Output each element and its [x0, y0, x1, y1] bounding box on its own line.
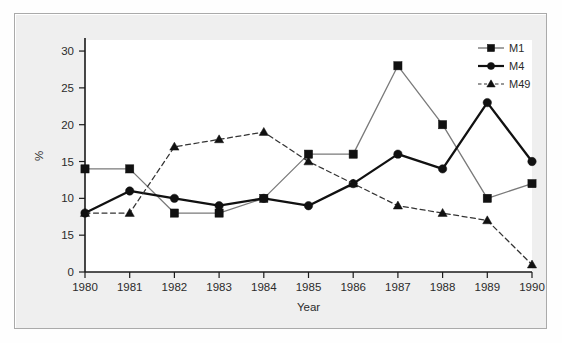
y-tick-label: 15: [61, 229, 74, 241]
x-tick-label: 1982: [162, 281, 188, 293]
x-tick-label: 1989: [475, 281, 501, 293]
data-point-marker: [81, 165, 89, 173]
x-axis-ticks: 1980198119821983198419851986198719881989…: [72, 272, 545, 293]
data-point-marker: [483, 98, 491, 106]
data-point-marker: [483, 194, 491, 202]
data-point-marker: [349, 150, 357, 158]
y-tick-label: 15: [61, 156, 74, 168]
data-point-marker: [126, 165, 134, 173]
x-tick-label: 1988: [430, 281, 456, 293]
x-tick-label: 1985: [296, 281, 322, 293]
chart-page: 0151015202530 19801981198219831984198519…: [0, 0, 562, 343]
x-tick-label: 1987: [385, 281, 411, 293]
x-tick-label: 1981: [117, 281, 143, 293]
y-tick-label: 20: [61, 119, 74, 131]
x-tick-label: 1983: [206, 281, 232, 293]
y-tick-label: 10: [61, 192, 74, 204]
data-point-marker: [439, 121, 447, 129]
line-chart: 0151015202530 19801981198219831984198519…: [0, 0, 562, 343]
y-axis-title: %: [33, 151, 45, 161]
legend-label: M4: [509, 60, 524, 72]
data-point-marker: [528, 180, 536, 188]
x-tick-label: 1984: [251, 281, 277, 293]
y-tick-label: 25: [61, 82, 74, 94]
legend-label: M1: [509, 42, 524, 54]
x-tick-label: 1986: [340, 281, 366, 293]
data-point-marker: [260, 194, 268, 202]
data-point-marker: [438, 165, 446, 173]
data-point-marker: [394, 150, 402, 158]
data-point-marker: [304, 202, 312, 210]
data-point-marker: [394, 62, 402, 70]
data-point-marker: [215, 202, 223, 210]
x-tick-label: 1990: [519, 281, 545, 293]
data-point-marker: [126, 187, 134, 195]
data-point-marker: [487, 62, 494, 69]
data-point-marker: [170, 209, 178, 217]
y-tick-label: 30: [61, 45, 74, 57]
x-tick-label: 1980: [72, 281, 98, 293]
x-axis-title: Year: [297, 301, 320, 313]
data-point-marker: [170, 194, 178, 202]
data-point-marker: [528, 157, 536, 165]
data-point-marker: [487, 44, 494, 51]
y-axis-ticks: 0151015202530: [61, 45, 85, 278]
data-point-marker: [215, 209, 223, 217]
legend-label: M49: [509, 78, 530, 90]
chart-canvas: 0151015202530 19801981198219831984198519…: [0, 0, 562, 343]
y-tick-label: 0: [68, 266, 74, 278]
